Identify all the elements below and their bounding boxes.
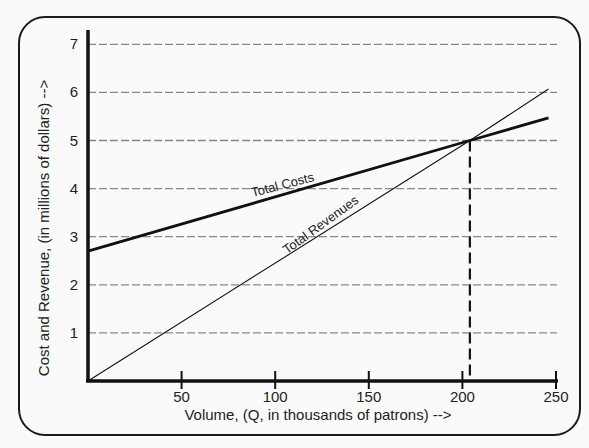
x-tick-label: 200 — [450, 388, 475, 405]
x-axis-title: Volume, (Q, in thousands of patrons) --> — [184, 406, 451, 423]
y-tick-label: 5 — [70, 132, 78, 149]
x-tick-label: 50 — [173, 388, 190, 405]
x-tick-label: 150 — [356, 388, 381, 405]
y-axis-title: Cost and Revenue, (in millions of dollar… — [35, 80, 52, 377]
y-tick-label: 2 — [70, 276, 78, 293]
y-tick-label: 6 — [70, 83, 78, 100]
x-tick-labels: 50100150200250 — [173, 371, 568, 405]
break-even-chart: 1234567 50100150200250 Total Costs Total… — [0, 0, 589, 448]
y-tick-label: 1 — [70, 324, 78, 341]
y-tick-label: 7 — [70, 35, 78, 52]
x-tick-label: 250 — [543, 388, 568, 405]
chart-frame — [19, 17, 580, 435]
x-tick-label: 100 — [263, 388, 288, 405]
gridlines — [88, 44, 557, 333]
y-tick-label: 4 — [70, 180, 78, 197]
y-tick-label: 3 — [70, 228, 78, 245]
y-tick-labels: 1234567 — [70, 35, 78, 341]
label-total-revenues: Total Revenues — [280, 192, 362, 257]
